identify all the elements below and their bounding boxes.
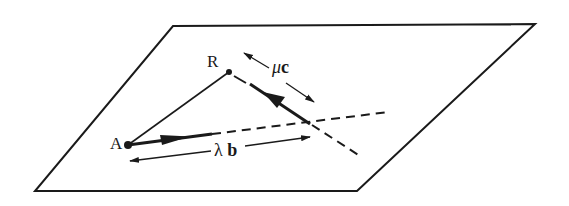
vector-c-shaft [250, 84, 310, 124]
mu-c-label: μc [272, 57, 289, 78]
lambda-b-label: λ b [214, 140, 237, 161]
dashed-line-b [212, 112, 388, 134]
point-a-label: A [110, 134, 122, 154]
vector-plane-diagram: A R μc λ b [0, 0, 569, 206]
vector-b-arrowhead [160, 135, 190, 145]
lambda-symbol: λ [214, 140, 223, 160]
lambda-b-arrow-left [130, 151, 211, 161]
point-r-dot [226, 69, 232, 75]
b-vector-symbol: b [227, 140, 237, 160]
lambda-b-arrow-right [245, 137, 310, 146]
point-r-label: R [207, 52, 218, 72]
dashed-line-c-upper [234, 76, 246, 83]
mu-c-arrow-upper [244, 53, 269, 68]
dashed-line-c-lower [312, 125, 360, 156]
point-a-dot [124, 141, 132, 149]
mu-symbol: μ [272, 57, 281, 77]
mu-c-arrow-lower [286, 83, 314, 102]
c-vector-symbol: c [281, 57, 289, 77]
